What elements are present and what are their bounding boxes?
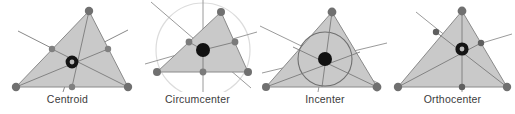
panel-circumcenter: Circumcenter bbox=[135, 0, 260, 114]
orthocenter-marker bbox=[455, 42, 468, 55]
orthocenter-label: Orthocenter bbox=[390, 93, 515, 105]
panel-centroid: Centroid bbox=[0, 0, 135, 114]
orthocenter-diagram bbox=[390, 0, 515, 92]
centroid-marker bbox=[66, 56, 79, 69]
panel-incenter: Incenter bbox=[260, 0, 390, 114]
incenter-diagram bbox=[260, 0, 390, 92]
incenter-marker bbox=[318, 52, 332, 66]
triangle-centers-figure: Centroid bbox=[0, 0, 515, 114]
centroid-label: Centroid bbox=[0, 93, 135, 105]
circumcenter-diagram bbox=[135, 0, 260, 92]
panel-orthocenter: Orthocenter bbox=[390, 0, 515, 114]
centroid-diagram bbox=[0, 0, 135, 92]
circumcenter-marker bbox=[196, 43, 210, 57]
circumcenter-label: Circumcenter bbox=[135, 93, 260, 105]
incenter-label: Incenter bbox=[260, 93, 390, 105]
triangle-shape bbox=[398, 11, 507, 87]
